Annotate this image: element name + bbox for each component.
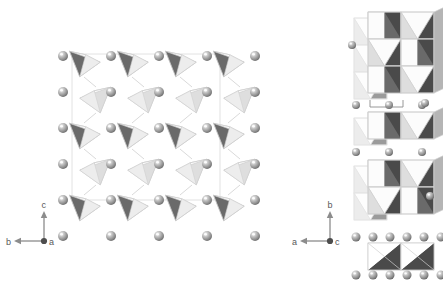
tetrahedron xyxy=(176,159,207,185)
tetrahedra-group-left xyxy=(70,51,255,221)
polyhedron-cell xyxy=(401,160,434,187)
cation-sphere xyxy=(352,101,360,109)
corner-link-edge xyxy=(228,77,240,87)
cation-sphere xyxy=(154,123,164,133)
slab-middle xyxy=(354,106,443,145)
cation-sphere xyxy=(420,233,429,242)
cation-sphere xyxy=(386,233,395,242)
slab-bottom xyxy=(368,243,434,270)
tetrahedron xyxy=(166,123,197,149)
cation-sphere xyxy=(106,87,116,97)
cation-sphere xyxy=(58,123,68,133)
corner-link-edge xyxy=(132,149,144,159)
cation-sphere xyxy=(385,101,393,109)
corner-link-edge xyxy=(132,185,144,195)
slab-top xyxy=(354,6,443,99)
cation-sphere xyxy=(352,148,360,156)
cation-sphere xyxy=(437,271,443,280)
slab-side-wedge xyxy=(434,106,443,139)
tetrahedron xyxy=(118,195,149,221)
cation-sphere xyxy=(385,148,393,156)
stray-sphere-lower-right xyxy=(426,192,434,200)
tetrahedron xyxy=(70,123,101,149)
cation-sphere xyxy=(250,159,260,169)
tetrahedron xyxy=(70,195,101,221)
cation-sphere xyxy=(250,123,260,133)
cation-sphere xyxy=(154,159,164,169)
corner-link-edge xyxy=(84,113,96,123)
slab-lower xyxy=(354,154,443,220)
polyhedron-cell xyxy=(368,187,401,214)
tetrahedron xyxy=(224,159,255,185)
polyhedron-cell xyxy=(401,66,434,93)
cation-sphere xyxy=(202,159,212,169)
crystal-structure-figure: c b a b a c xyxy=(0,0,443,286)
corner-link-edge xyxy=(132,113,144,123)
polyhedron-cell xyxy=(401,243,434,270)
corner-link-edge xyxy=(84,185,96,195)
corner-link-edge xyxy=(180,185,192,195)
main-projection-canvas: c b a xyxy=(0,0,300,286)
cell-face-light xyxy=(401,39,418,66)
cation-sphere xyxy=(369,233,378,242)
cation-sphere xyxy=(58,231,68,241)
tetrahedron xyxy=(118,51,149,77)
axis-label-b: b xyxy=(328,200,333,210)
corner-link-edge xyxy=(180,113,192,123)
cation-sphere xyxy=(154,51,164,61)
side-projection-canvas: b a c xyxy=(300,0,443,286)
axis-triad-right: b a c xyxy=(292,200,340,247)
cation-sphere xyxy=(403,233,412,242)
axis-label-c: c xyxy=(335,237,340,247)
corner-link-edge xyxy=(228,149,240,159)
cation-sphere xyxy=(420,271,429,280)
cation-sphere xyxy=(369,271,378,280)
corner-link-edge xyxy=(228,185,240,195)
cell-face-light xyxy=(368,112,385,139)
cation-sphere xyxy=(386,271,395,280)
cell-face-light xyxy=(368,66,385,93)
tetrahedron xyxy=(128,87,159,113)
cation-sphere xyxy=(202,123,212,133)
sphere-row-2 xyxy=(352,148,426,156)
polyhedron-cell xyxy=(368,112,401,139)
sphere-row-3 xyxy=(352,233,443,242)
polyhedron-cell xyxy=(368,66,401,93)
stray-sphere-upper-left xyxy=(348,41,356,49)
polyhedron-cell xyxy=(401,187,434,214)
sphere-row-4 xyxy=(352,271,443,280)
cation-sphere xyxy=(202,231,212,241)
slab-side-wedge xyxy=(434,154,443,214)
cation-sphere xyxy=(154,87,164,97)
corner-link-edge xyxy=(180,149,192,159)
polyhedron-cell xyxy=(368,243,401,270)
tetrahedron xyxy=(214,195,245,221)
cation-sphere xyxy=(154,231,164,241)
tetrahedron xyxy=(80,87,111,113)
side-projection-panel: b a c xyxy=(300,0,443,286)
polyhedron-cell xyxy=(401,39,434,66)
cation-sphere xyxy=(250,87,260,97)
tetrahedron xyxy=(128,159,159,185)
cation-sphere xyxy=(202,195,212,205)
tetrahedron xyxy=(176,87,207,113)
corner-link-edge xyxy=(132,77,144,87)
tetrahedron xyxy=(214,51,245,77)
cell-face-light xyxy=(368,160,385,187)
tetrahedron xyxy=(118,123,149,149)
main-projection-panel: c b a xyxy=(0,0,300,286)
sphere-row-1 xyxy=(352,101,426,109)
tetrahedron xyxy=(224,87,255,113)
cation-sphere xyxy=(58,159,68,169)
cation-sphere xyxy=(352,233,361,242)
cation-sphere xyxy=(154,195,164,205)
polyhedron-cell xyxy=(401,12,434,39)
axis-label-b: b xyxy=(6,237,11,247)
cation-sphere xyxy=(106,231,116,241)
cation-sphere xyxy=(250,51,260,61)
cation-sphere xyxy=(352,271,361,280)
cation-sphere xyxy=(58,195,68,205)
polyhedra-slabs-right xyxy=(354,6,443,270)
axis-label-a: a xyxy=(49,237,54,247)
tetrahedron xyxy=(166,51,197,77)
